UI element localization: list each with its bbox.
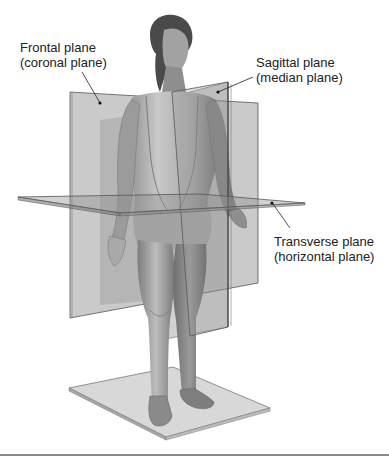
frontal-plane-label: Frontal plane (coronal plane) xyxy=(20,40,107,70)
transverse-plane-label: Transverse plane (horizontal plane) xyxy=(274,234,374,264)
floor-plate xyxy=(69,367,270,440)
transverse-plane-label-line1: Transverse plane xyxy=(274,234,374,249)
anatomical-planes-figure: Frontal plane (coronal plane) Sagittal p… xyxy=(0,0,389,460)
sagittal-plane-label-line2: (median plane) xyxy=(256,70,343,85)
frontal-plane-label-line2: (coronal plane) xyxy=(20,55,107,70)
sagittal-plane-label: Sagittal plane (median plane) xyxy=(256,55,343,85)
sagittal-plane-label-line1: Sagittal plane xyxy=(256,55,343,70)
transverse-plane-label-line2: (horizontal plane) xyxy=(274,249,374,264)
bottom-divider xyxy=(0,454,389,456)
frontal-plane-label-line1: Frontal plane xyxy=(20,40,107,55)
transverse-plane xyxy=(18,194,305,216)
